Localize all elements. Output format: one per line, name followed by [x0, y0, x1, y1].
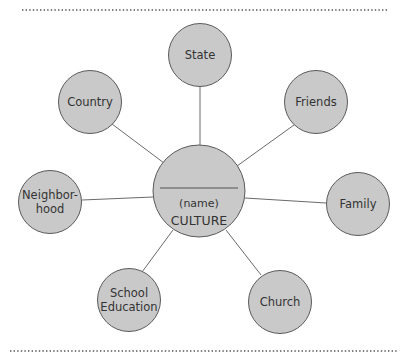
school-label-line2: Education [100, 300, 157, 314]
edge-friends [237, 125, 294, 166]
center-node-culture: (name) CULTURE [153, 145, 245, 237]
node-church: Church [249, 271, 312, 334]
state-label: State [185, 48, 215, 62]
country-label: Country [67, 95, 113, 109]
edge-family [245, 198, 326, 203]
node-neighborhood: Neighbor- hood [19, 171, 82, 234]
node-state: State [169, 24, 232, 87]
friends-label: Friends [295, 95, 336, 109]
edge-school-education [142, 230, 173, 272]
node-family: Family [327, 173, 390, 236]
name-placeholder: (name) [179, 197, 219, 210]
node-school-education: School Education [98, 269, 161, 332]
culture-diagram: (name) CULTURE State Friends Family Chur… [0, 0, 407, 364]
edge-neighborhood [82, 197, 153, 200]
school-label-line1: School [110, 286, 148, 300]
node-friends: Friends [285, 71, 348, 134]
edge-country [112, 124, 164, 163]
church-label: Church [260, 295, 301, 309]
edge-church [226, 230, 261, 275]
neighborhood-label-line1: Neighbor- [22, 188, 78, 202]
node-country: Country [59, 71, 122, 134]
family-label: Family [339, 197, 376, 211]
culture-title: CULTURE [171, 213, 228, 228]
neighborhood-label-line2: hood [36, 202, 65, 216]
